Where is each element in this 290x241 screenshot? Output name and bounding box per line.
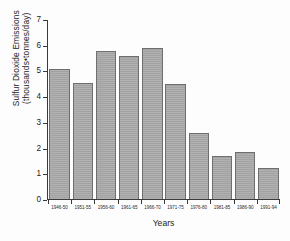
- bar-1981-85: [212, 156, 232, 199]
- y-tick-4: [43, 97, 47, 98]
- x-tick-slot: [141, 200, 164, 204]
- bar-1991-94: [258, 168, 278, 199]
- x-tick-slot: [48, 200, 71, 204]
- x-tick-1946-50: [48, 200, 49, 204]
- bar-1986-90: [235, 152, 255, 199]
- bar-series: [48, 20, 280, 199]
- x-tick-label-1951-55: 1951-55: [71, 205, 94, 211]
- y-tick-label-7: 7: [36, 16, 41, 24]
- bar-slot: [234, 20, 257, 199]
- bar-1961-65: [119, 56, 139, 199]
- x-tick-slot: [234, 200, 257, 204]
- y-tick-label-0: 0: [36, 196, 41, 204]
- x-tick-label-1956-60: 1956-60: [94, 205, 117, 211]
- plot-area: 01234567 1946-501951-551956-601961-65196…: [47, 20, 280, 200]
- x-tick-label-1986-90: 1986-90: [234, 205, 257, 211]
- x-axis-ticks: [48, 200, 280, 204]
- bar-chart: Sulfur Dioxide Emissions (thousands•tonn…: [0, 0, 290, 241]
- y-tick-1: [43, 174, 47, 175]
- x-tick-slot: [257, 200, 280, 204]
- x-tick-1986-90: [234, 200, 235, 204]
- bar-1976-80: [189, 133, 209, 199]
- x-tick-1976-80: [187, 200, 188, 204]
- bar-slot: [48, 20, 71, 199]
- y-tick-label-1: 1: [36, 170, 41, 178]
- x-tick-label-1966-70: 1966-70: [141, 205, 164, 211]
- x-tick-label-1991-94: 1991-94: [257, 205, 280, 211]
- bar-slot: [257, 20, 280, 199]
- y-axis-title-line-2: (thousands•tonnes/day): [21, 0, 31, 143]
- bar-slot: [141, 20, 164, 199]
- bar-1971-75: [165, 84, 185, 199]
- x-tick-label-1961-65: 1961-65: [118, 205, 141, 211]
- y-tick-3: [43, 123, 47, 124]
- y-tick-label-4: 4: [36, 93, 41, 101]
- x-tick-1971-75: [164, 200, 165, 204]
- x-tick-1981-85: [210, 200, 211, 204]
- x-tick-1991-94: [257, 200, 258, 204]
- y-axis-title-line-1: Sulfur Dioxide Emissions: [11, 10, 21, 106]
- y-tick-label-2: 2: [36, 145, 41, 153]
- x-tick-label-1981-85: 1981-85: [210, 205, 233, 211]
- x-tick-1961-65: [118, 200, 119, 204]
- x-tick-slot: [71, 200, 94, 204]
- y-tick-label-3: 3: [36, 119, 41, 127]
- bar-1966-70: [142, 48, 162, 199]
- x-tick-label-1971-75: 1971-75: [164, 205, 187, 211]
- bar-slot: [164, 20, 187, 199]
- x-tick-1966-70: [141, 200, 142, 204]
- y-tick-label-6: 6: [36, 42, 41, 50]
- x-tick-slot: [187, 200, 210, 204]
- y-tick-2: [43, 149, 47, 150]
- y-tick-0: [43, 200, 47, 201]
- x-axis-title: Years: [47, 218, 280, 228]
- bar-1956-60: [96, 51, 116, 199]
- y-tick-7: [43, 20, 47, 21]
- x-axis-tick-labels: 1946-501951-551956-601961-651966-701971-…: [48, 205, 280, 211]
- bar-1946-50: [49, 69, 69, 199]
- bar-slot: [71, 20, 94, 199]
- x-tick-slot: [210, 200, 233, 204]
- bar-slot: [187, 20, 210, 199]
- y-tick-5: [43, 71, 47, 72]
- bar-slot: [118, 20, 141, 199]
- x-tick-end: [279, 200, 280, 204]
- x-tick-slot: [118, 200, 141, 204]
- bar-slot: [210, 20, 233, 199]
- x-tick-label-1946-50: 1946-50: [48, 205, 71, 211]
- x-tick-1956-60: [94, 200, 95, 204]
- x-tick-slot: [164, 200, 187, 204]
- y-tick-6: [43, 46, 47, 47]
- x-tick-label-1976-80: 1976-80: [187, 205, 210, 211]
- bar-1951-55: [73, 83, 93, 199]
- x-tick-1951-55: [71, 200, 72, 204]
- x-tick-slot: [94, 200, 117, 204]
- bar-slot: [94, 20, 117, 199]
- y-axis-title: Sulfur Dioxide Emissions (thousands•tonn…: [11, 0, 31, 143]
- y-tick-label-5: 5: [36, 67, 41, 75]
